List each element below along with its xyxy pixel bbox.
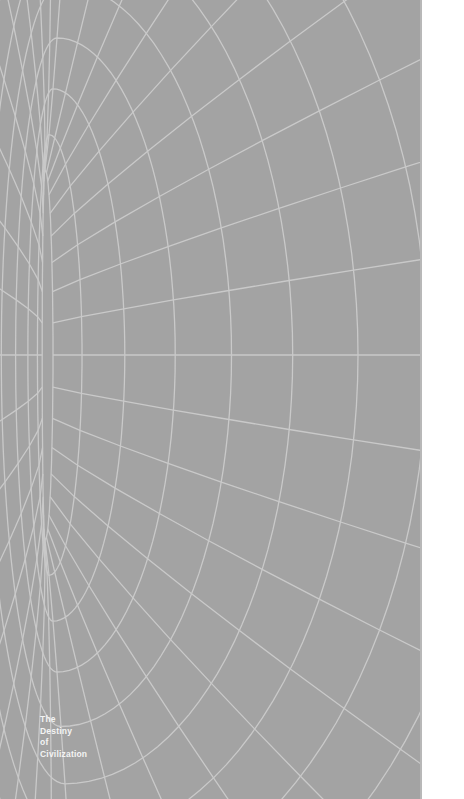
title-line-3: of: [40, 737, 87, 749]
title-line-1: The: [40, 714, 87, 726]
wireframe-tunnel-artwork: [0, 0, 420, 799]
book-cover: The Destiny of Civilization: [0, 0, 420, 799]
title-line-4: Civilization: [40, 749, 87, 761]
title-line-2: Destiny: [40, 726, 87, 738]
cover-edge-shadow: [420, 0, 422, 799]
cover-title: The Destiny of Civilization: [40, 714, 87, 760]
